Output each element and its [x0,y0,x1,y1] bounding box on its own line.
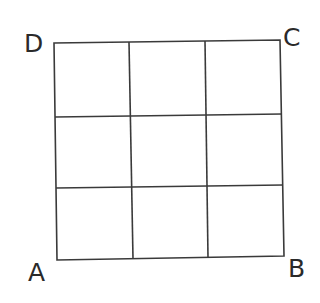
grid-line-vertical-1 [129,42,133,259]
grid-line-vertical-2 [205,41,208,258]
outer-square [54,40,284,260]
grid-diagram: D C B A [0,0,320,303]
grid-line-horizontal-1 [55,114,282,117]
vertex-label-a: A [28,258,45,287]
vertex-label-d: D [24,29,43,58]
vertex-label-b: B [288,254,305,283]
vertex-label-c: C [283,23,300,52]
grid-line-horizontal-2 [56,185,283,188]
